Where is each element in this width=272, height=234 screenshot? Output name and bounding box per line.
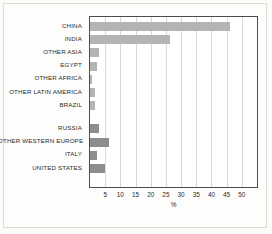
- bar-other-western-europe: [90, 138, 109, 147]
- category-label-other-western-europe: OTHER WESTERN EUROPE: [0, 137, 82, 145]
- bar-other-africa: [90, 75, 92, 84]
- category-label-other-latin-america: OTHER LATIN AMERICA: [0, 88, 82, 96]
- x-tick-label-10: 10: [117, 190, 124, 199]
- bar-russia: [90, 124, 99, 133]
- plot-area: LDCs MDCs: [89, 16, 258, 188]
- x-tick-label-50: 50: [238, 190, 245, 199]
- x-tick-label-15: 15: [132, 190, 139, 199]
- bar-egypt: [90, 62, 97, 71]
- category-label-united-states: UNITED STATES: [0, 164, 82, 172]
- bar-united-states: [90, 164, 105, 173]
- bar-other-asia: [90, 48, 99, 57]
- x-tick-label-5: 5: [103, 190, 107, 199]
- category-label-egypt: EGYPT: [0, 61, 82, 69]
- category-label-italy: ITALY: [0, 150, 82, 158]
- x-axis-title: %: [89, 201, 258, 208]
- bar-chart-figure: CHINAINDIAOTHER ASIAEGYPTOTHER AFRICAOTH…: [0, 0, 272, 234]
- category-label-brazil: BRAZIL: [0, 101, 82, 109]
- bar-brazil: [90, 101, 95, 110]
- x-tick-label-25: 25: [162, 190, 169, 199]
- x-tick-label-20: 20: [147, 190, 154, 199]
- bar-italy: [90, 151, 97, 160]
- bar-other-latin-america: [90, 88, 95, 97]
- bar-china: [90, 22, 230, 31]
- category-label-other-africa: OTHER AFRICA: [0, 74, 82, 82]
- x-tick-label-35: 35: [193, 190, 200, 199]
- x-tick-label-45: 45: [223, 190, 230, 199]
- bars-container: [90, 17, 257, 187]
- category-axis-labels: CHINAINDIAOTHER ASIAEGYPTOTHER AFRICAOTH…: [0, 16, 86, 188]
- category-label-other-asia: OTHER ASIA: [0, 48, 82, 56]
- x-tick-label-40: 40: [208, 190, 215, 199]
- category-label-china: CHINA: [0, 22, 82, 30]
- x-tick-label-30: 30: [178, 190, 185, 199]
- bar-india: [90, 35, 170, 44]
- category-label-india: INDIA: [0, 35, 82, 43]
- category-label-russia: RUSSIA: [0, 124, 82, 132]
